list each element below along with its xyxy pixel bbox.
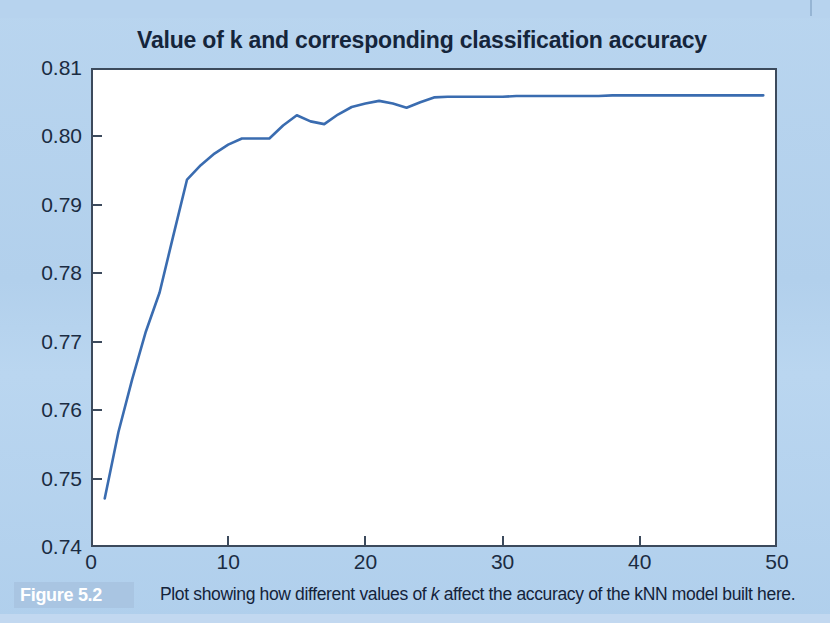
y-tick-label: 0.78 (12, 261, 82, 285)
x-tick-label: 20 (354, 550, 377, 574)
caption-part-2: affect the accuracy of the kNN model bui… (439, 584, 795, 604)
x-tick-label: 10 (217, 550, 240, 574)
figure-caption-text: Plot showing how different values of k a… (160, 584, 795, 605)
y-tick-mark (91, 272, 102, 274)
x-tick-mark (502, 536, 504, 547)
x-tick-label: 0 (85, 550, 97, 574)
y-tick-mark (91, 204, 102, 206)
x-tick-label: 40 (628, 550, 651, 574)
chart-title: Value of k and corresponding classificat… (0, 27, 830, 54)
y-tick-label: 0.77 (12, 330, 82, 354)
y-tick-label: 0.80 (12, 124, 82, 148)
caption-variable-k: k (431, 584, 439, 604)
page-bottom-band (0, 614, 830, 623)
y-tick-mark (91, 341, 102, 343)
accuracy-line-chart (93, 70, 775, 545)
y-tick-label: 0.75 (12, 467, 82, 491)
y-tick-label: 0.79 (12, 193, 82, 217)
x-tick-mark (364, 536, 366, 547)
y-tick-mark (91, 478, 102, 480)
figure-number-badge: Figure 5.2 (14, 582, 134, 608)
plot-area (91, 68, 777, 547)
y-tick-label: 0.74 (12, 535, 82, 559)
x-tick-label: 30 (491, 550, 514, 574)
y-tick-label: 0.76 (12, 398, 82, 422)
page-top-band (0, 0, 830, 18)
data-series-line (105, 95, 764, 498)
y-tick-mark (91, 135, 102, 137)
x-tick-label: 50 (765, 550, 788, 574)
y-tick-label: 0.81 (12, 56, 82, 80)
x-tick-mark (639, 536, 641, 547)
y-tick-mark (91, 409, 102, 411)
caption-part-1: Plot showing how different values of (160, 584, 431, 604)
x-tick-mark (227, 536, 229, 547)
figure-container: Value of k and corresponding classificat… (0, 0, 830, 623)
